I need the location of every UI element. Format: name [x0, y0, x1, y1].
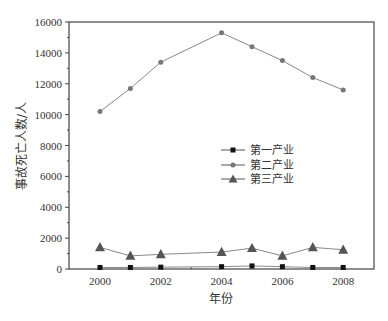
square-marker: [341, 265, 346, 270]
circle-marker: [128, 86, 133, 91]
legend-item: 第一产业: [221, 143, 294, 157]
legend-item: 第二产业: [221, 158, 294, 172]
y-tick-label: 12000: [35, 78, 63, 90]
y-tick-label: 4000: [40, 201, 63, 213]
triangle-marker: [156, 249, 166, 258]
x-tick-label: 2002: [150, 275, 172, 287]
y-tick-label: 0: [57, 263, 63, 275]
circle-marker: [310, 75, 315, 80]
circle-marker: [231, 163, 236, 168]
series-line: [100, 33, 343, 112]
square-marker: [231, 148, 236, 153]
triangle-marker: [229, 174, 238, 182]
y-axis-label: 事故死亡人数/人: [14, 102, 29, 190]
y-tick-label: 6000: [40, 170, 63, 182]
square-marker: [128, 265, 133, 270]
circle-marker: [158, 60, 163, 65]
legend-label: 第一产业: [250, 143, 294, 157]
triangle-marker: [95, 242, 105, 251]
square-marker: [250, 263, 255, 268]
circle-marker: [219, 30, 224, 35]
legend-item: 第三产业: [221, 172, 294, 186]
x-tick-label: 2000: [89, 275, 112, 287]
circle-marker: [98, 109, 103, 114]
y-tick-label: 2000: [40, 232, 63, 244]
series-triangle: [95, 242, 348, 260]
x-tick-label: 2008: [332, 275, 355, 287]
square-marker: [310, 265, 315, 270]
x-tick-label: 2006: [271, 275, 294, 287]
circle-marker: [280, 58, 285, 63]
line-chart: 0200040006000800010000120001400016000200…: [0, 0, 388, 321]
series-circle: [98, 30, 346, 114]
square-marker: [280, 264, 285, 269]
plot-frame: [69, 22, 374, 269]
legend-label: 第三产业: [250, 172, 294, 186]
legend: 第一产业第二产业第三产业: [221, 143, 294, 186]
circle-marker: [341, 87, 346, 92]
triangle-marker: [247, 243, 257, 252]
triangle-marker: [308, 242, 318, 251]
x-tick-label: 2004: [211, 275, 234, 287]
plot-axes: 0200040006000800010000120001400016000200…: [35, 16, 375, 287]
x-axis-label: 年份: [209, 292, 233, 306]
square-marker: [219, 264, 224, 269]
y-tick-label: 16000: [35, 16, 63, 28]
circle-marker: [250, 44, 255, 49]
square-marker: [98, 265, 103, 270]
legend-label: 第二产业: [250, 158, 294, 172]
y-tick-label: 10000: [35, 109, 63, 121]
y-tick-label: 14000: [35, 47, 63, 59]
y-tick-label: 8000: [40, 140, 63, 152]
square-marker: [158, 265, 163, 270]
